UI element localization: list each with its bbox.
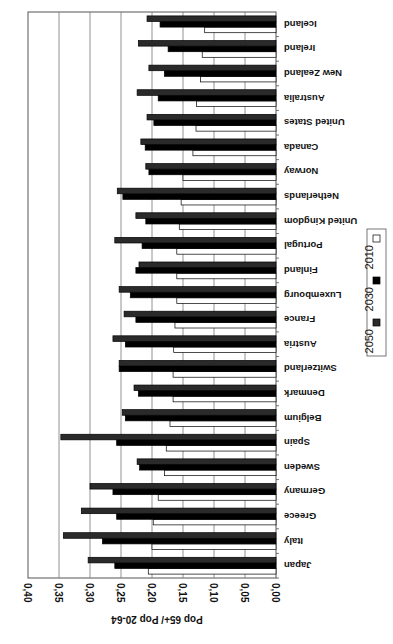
bar-switzerland-2030 <box>119 366 276 372</box>
bar-iceland-2030 <box>160 22 276 28</box>
bar-norway-2050 <box>146 164 276 170</box>
bar-australia-2050 <box>137 90 276 96</box>
category-label: Greece <box>284 511 316 522</box>
category-label: Ireland <box>284 43 315 54</box>
bar-france-2030 <box>136 317 276 323</box>
legend-label-2030: 2030 <box>363 287 375 311</box>
bar-finland-2050 <box>139 262 276 268</box>
chart-rotated-group: 0,000,050,100,150,200,250,300,350,40 Jap… <box>22 12 386 625</box>
bar-united-kingdom-2050 <box>136 213 276 219</box>
bar-netherlands-2010 <box>181 199 276 205</box>
category-label: Australia <box>283 93 324 104</box>
bar-finland-2030 <box>136 268 276 274</box>
legend: 201020302050 <box>363 229 387 356</box>
category-label: Austria <box>283 339 316 350</box>
x-tick-label: 0,40 <box>22 583 33 603</box>
bar-austria-2030 <box>125 341 276 347</box>
category-label: United Kingdom <box>284 216 357 227</box>
category-label: Germany <box>283 486 325 497</box>
bar-netherlands-2050 <box>117 188 276 194</box>
bar-spain-2050 <box>61 434 276 440</box>
bar-japan-2010 <box>148 568 276 574</box>
category-label: Portugal <box>284 240 323 251</box>
bar-greece-2050 <box>81 508 276 514</box>
x-axis-ticks: 0,000,050,100,150,200,250,300,350,40 <box>22 583 281 603</box>
bar-iceland-2050 <box>147 16 276 22</box>
category-label: New Zealand <box>284 68 342 79</box>
category-label: Switzerland <box>284 363 337 374</box>
bar-japan-2030 <box>115 563 276 569</box>
bar-canada-2030 <box>145 145 276 151</box>
category-label: Sweden <box>284 462 320 473</box>
category-label: Finland <box>284 265 318 276</box>
bar-greece-2010 <box>153 519 276 525</box>
bar-belgium-2050 <box>122 410 276 416</box>
legend-swatch-2010 <box>373 235 380 242</box>
bar-spain-2030 <box>117 440 276 446</box>
bar-france-2010 <box>175 322 276 328</box>
bar-denmark-2010 <box>173 396 276 402</box>
category-label: United States <box>284 117 345 128</box>
bar-united-states-2030 <box>154 120 276 126</box>
bar-canada-2010 <box>193 150 276 156</box>
bar-luxembourg-2050 <box>119 287 276 293</box>
bar-belgium-2030 <box>125 415 276 421</box>
x-axis-title: Pop 65+/ Pop 20-64 <box>111 614 203 625</box>
category-label: Norway <box>283 166 318 177</box>
bar-netherlands-2030 <box>123 194 276 200</box>
bar-switzerland-2010 <box>173 372 276 378</box>
bar-japan-2050 <box>88 557 276 563</box>
bar-france-2050 <box>124 311 276 317</box>
bar-germany-2010 <box>158 495 276 501</box>
legend-swatch-2050 <box>373 319 380 326</box>
bar-portugal-2050 <box>115 237 276 243</box>
bar-switzerland-2050 <box>119 360 276 366</box>
category-label: Japan <box>284 560 312 571</box>
chart: 0,000,050,100,150,200,250,300,350,40 Jap… <box>0 0 393 644</box>
bar-sweden-2050 <box>137 459 276 465</box>
x-tick-label: 0,35 <box>53 583 64 603</box>
bar-norway-2030 <box>149 169 276 175</box>
legend-label-2010: 2010 <box>363 245 375 269</box>
bar-luxembourg-2010 <box>177 298 276 304</box>
category-label: Iceland <box>284 19 317 30</box>
bar-norway-2010 <box>183 175 276 181</box>
bar-italy-2050 <box>63 533 276 539</box>
bar-ireland-2030 <box>168 46 276 52</box>
bar-united-kingdom-2010 <box>179 224 276 230</box>
bar-denmark-2030 <box>138 391 276 397</box>
bar-finland-2010 <box>177 273 276 279</box>
category-label: Denmark <box>283 388 324 399</box>
legend-swatch-2030 <box>373 277 380 284</box>
bar-belgium-2010 <box>170 421 276 427</box>
bar-denmark-2050 <box>134 385 276 391</box>
bar-italy-2030 <box>102 538 276 544</box>
bar-new-zealand-2010 <box>200 76 276 82</box>
bar-australia-2010 <box>197 101 276 107</box>
legend-label-2050: 2050 <box>363 329 375 353</box>
bar-new-zealand-2030 <box>164 71 276 77</box>
category-label: Netherlands <box>284 191 339 202</box>
category-label: Canada <box>283 142 318 153</box>
category-label: Belgium <box>284 413 321 424</box>
x-tick-label: 0,15 <box>177 583 188 603</box>
bar-united-states-2010 <box>196 126 276 132</box>
bar-united-kingdom-2030 <box>146 218 276 224</box>
bar-united-states-2050 <box>147 114 276 120</box>
bar-luxembourg-2030 <box>130 292 276 298</box>
bar-ireland-2010 <box>202 52 276 58</box>
bar-austria-2010 <box>174 347 276 353</box>
bar-greece-2030 <box>117 514 276 520</box>
bar-new-zealand-2050 <box>149 65 276 71</box>
bar-italy-2010 <box>152 544 276 550</box>
category-label: France <box>284 314 315 325</box>
x-tick-label: 0,25 <box>115 583 126 603</box>
bar-spain-2010 <box>166 445 276 451</box>
x-tick-label: 0,10 <box>208 583 219 603</box>
bar-sweden-2010 <box>164 470 276 476</box>
category-labels: JapanItalyGreeceGermanySwedenSpainBelgiu… <box>283 19 357 571</box>
bar-austria-2050 <box>113 336 276 342</box>
bar-portugal-2010 <box>177 249 276 255</box>
bar-portugal-2030 <box>142 243 276 249</box>
category-label: Spain <box>284 437 310 448</box>
